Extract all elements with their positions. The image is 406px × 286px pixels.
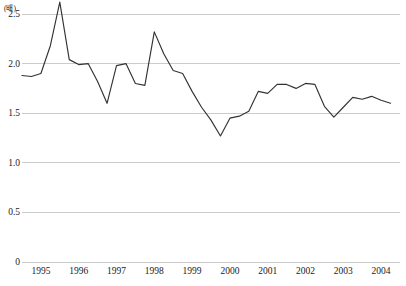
plot-svg	[22, 14, 400, 262]
x-tick-label: 2004	[361, 264, 401, 278]
y-axis: 00.51.01.52.02.5	[0, 0, 20, 286]
x-tick-label: 2000	[210, 264, 250, 278]
y-tick-label: 0	[0, 257, 20, 267]
y-tick-label: 0.5	[0, 207, 20, 217]
data-series-group	[22, 2, 391, 136]
x-tick-label: 1998	[134, 264, 174, 278]
x-tick-label: 1995	[21, 264, 61, 278]
y-tick-label: 1.5	[0, 108, 20, 118]
y-tick-label: 1.0	[0, 158, 20, 168]
plot-area	[22, 14, 400, 262]
x-axis: 1995199619971998199920002001200220032004	[22, 264, 400, 284]
x-tick-label: 1997	[97, 264, 137, 278]
y-tick-label: 2.0	[0, 59, 20, 69]
gridlines	[22, 14, 400, 262]
x-tick-label: 2002	[286, 264, 326, 278]
x-tick-label: 1999	[172, 264, 212, 278]
x-tick-label: 2003	[323, 264, 363, 278]
line-chart: (배) 00.51.01.52.02.5 1995199619971998199…	[0, 0, 406, 286]
data-line	[22, 2, 391, 136]
x-tick-label: 2001	[248, 264, 288, 278]
x-tick-label: 1996	[59, 264, 99, 278]
y-tick-label: 2.5	[0, 9, 20, 19]
